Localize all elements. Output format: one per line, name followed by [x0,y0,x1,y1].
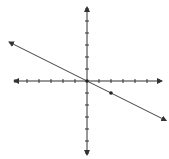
data-point [109,91,113,95]
line-segment [9,42,88,81]
line-segment [88,81,167,120]
coordinate-plane [0,0,169,159]
data-point [85,79,89,83]
